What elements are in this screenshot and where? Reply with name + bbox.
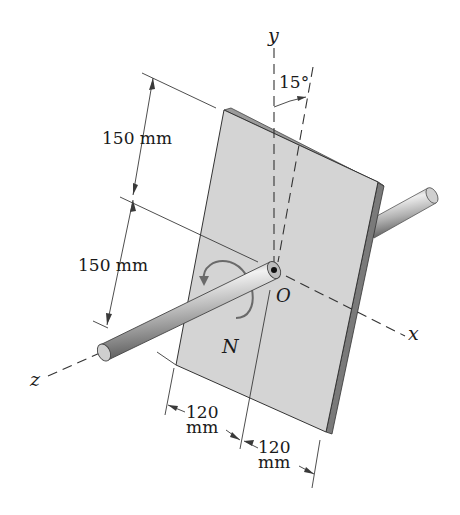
plate-shaft-diagram: y 15° 150 mm 150 mm O N x z 120 mm 120 m… [0,0,460,515]
diagram-drawing [0,0,460,515]
left-width-dimension: 120 mm [186,405,218,435]
x-axis-label: x [408,324,419,343]
upper-height-dimension: 150 mm [102,130,172,147]
z-axis-line [48,352,102,376]
y-axis-label: y [268,26,279,45]
moment-label: N [222,337,239,356]
lower-height-dimension: 150 mm [78,257,148,274]
angle-arrowhead [297,96,306,101]
right-width-dimension: 120 mm [258,440,290,470]
left-width-unit: mm [186,420,218,435]
right-width-unit: mm [258,455,290,470]
z-axis-label: z [30,370,40,389]
origin-label: O [276,287,291,305]
angle-label: 15° [279,74,309,91]
origin-point [271,267,277,273]
